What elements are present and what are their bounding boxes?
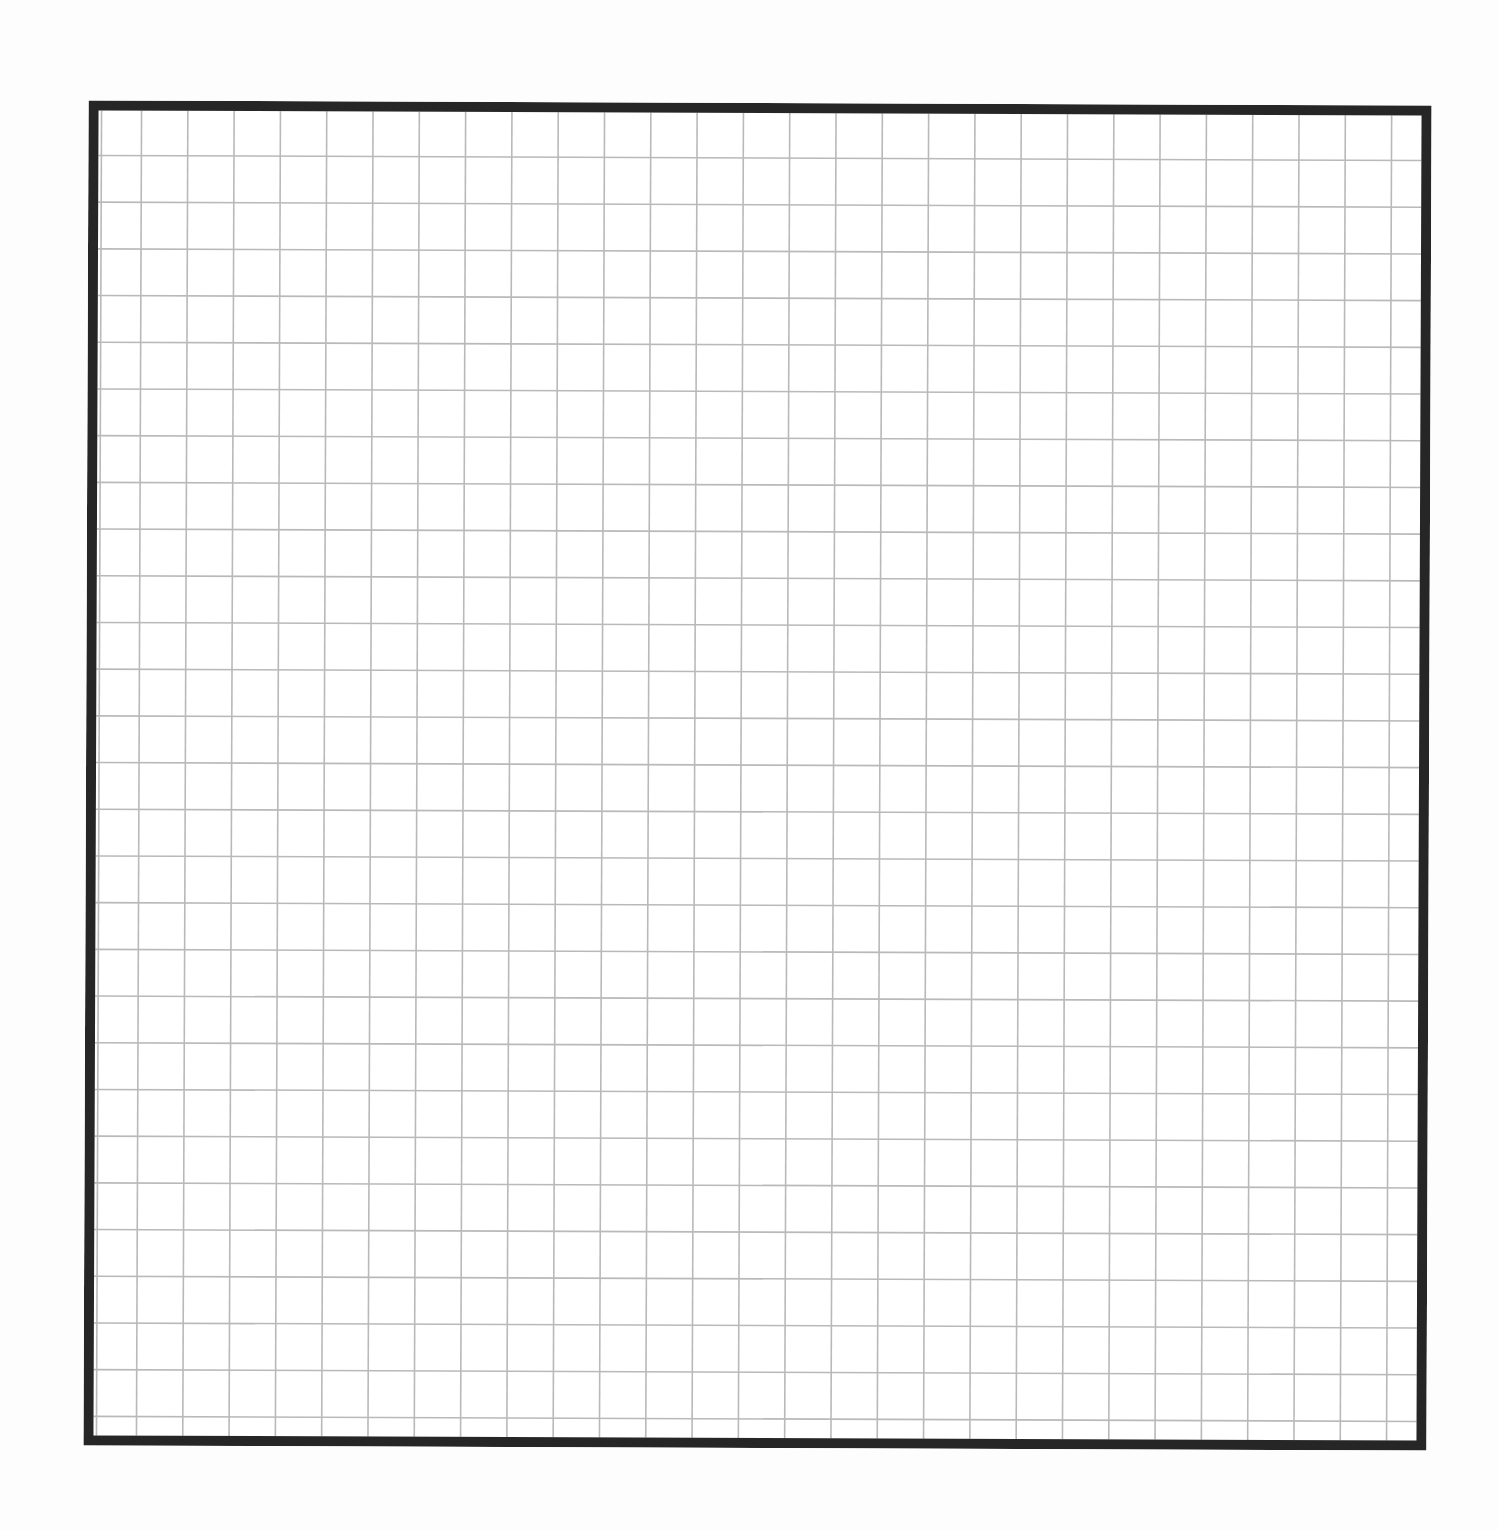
graph-grid: [83, 100, 1431, 1450]
grid-frame: [83, 100, 1431, 1450]
grid-background: [83, 100, 1431, 1450]
paper-sheet: [0, 0, 1498, 1530]
